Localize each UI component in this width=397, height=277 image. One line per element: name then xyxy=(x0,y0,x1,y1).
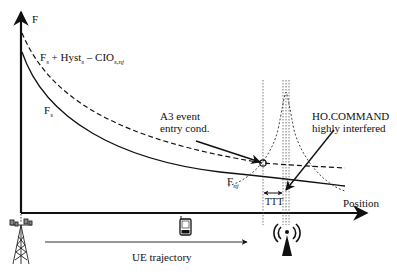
serving-offset-curve-label: Fs + Hysts – CIOs,nj xyxy=(40,51,124,68)
label-sub: s xyxy=(50,111,53,119)
mobile-phone-icon xyxy=(180,216,191,235)
serving-cell-tower-icon xyxy=(10,214,32,264)
ho-annotation-line2: highly interfered xyxy=(312,122,386,134)
neighbor-antenna-icon xyxy=(274,224,300,256)
label-cio: – CIO xyxy=(84,51,114,63)
a3-annotation-line1: A3 event xyxy=(160,110,200,122)
label-sub-snj: s,nj xyxy=(114,58,124,66)
y-axis-label: F xyxy=(32,13,38,25)
neighbor-curve xyxy=(228,92,345,191)
trajectory-label: UE trajectory xyxy=(132,251,192,263)
diagram-canvas xyxy=(0,0,397,277)
ho-annotation-line1: HO.COMMAND xyxy=(312,110,389,122)
x-axis-label: Position xyxy=(343,197,379,209)
a3-annotation-line2: entry cond. xyxy=(160,122,209,134)
label-sub: nj xyxy=(233,182,238,190)
neighbor-curve-label: Fnj xyxy=(227,175,239,192)
ttt-label: TTT xyxy=(265,196,283,208)
label-hyst: + Hyst xyxy=(49,51,81,63)
serving-curve-label: Fs xyxy=(44,104,53,121)
